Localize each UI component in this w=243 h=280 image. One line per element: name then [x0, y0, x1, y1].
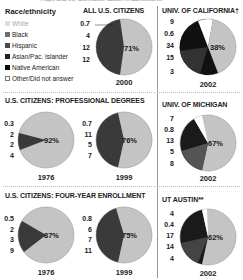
- swatch-native: [5, 65, 10, 70]
- panel-title: UNIV. OF CALIFORNIA†: [162, 7, 239, 14]
- pie-michigan-2002: 67%: [178, 113, 238, 173]
- legend-item-asian: Asian/Pac. Islander: [5, 51, 75, 62]
- swatch-black: [5, 32, 10, 37]
- legend-item-white: White: [5, 18, 75, 29]
- pie-labels-enroll-1976: 0.5 2 3 9: [2, 215, 14, 275]
- row-divider-2: [3, 186, 240, 187]
- year-label: 1999: [104, 268, 144, 277]
- year-label: 2002: [188, 269, 228, 278]
- pie-all-us-2000: 71%: [94, 17, 154, 77]
- cut-off-header-text: ...ups and the affirmative action in adm…: [40, 0, 163, 2]
- legend-item-other: Other/Did not answer: [5, 73, 75, 84]
- pie-prof-1999: 76%: [94, 110, 154, 170]
- legend-title: Race/ethnicity: [5, 7, 75, 16]
- pie-labels-prof-1976: 0.3 2 2 4: [2, 120, 14, 180]
- year-label: 2000: [104, 78, 144, 87]
- year-label: 1976: [26, 173, 66, 182]
- panel-univ-of-california: UNIV. OF CALIFORNIA†: [162, 7, 239, 14]
- legend-item-native: Native American: [5, 62, 75, 73]
- legend-item-black: Black: [5, 29, 75, 40]
- pie-labels-michigan: 7 0.8 13 5 8: [162, 115, 174, 185]
- panel-all-us-citizens: ALL U.S. CITIZENS: [83, 7, 144, 14]
- vertical-divider: [157, 6, 158, 278]
- swatch-asian: [5, 54, 10, 59]
- panel-title: U.S. CITIZENS: PROFESSIONAL DEGREES: [5, 97, 145, 104]
- pie-labels-ut-austin: 4 0.4 17 14 4: [162, 210, 174, 280]
- swatch-hispanic: [5, 43, 10, 48]
- pie-labels-uc: 9 0.6 34 15 3: [162, 16, 174, 86]
- pie-prof-1976: 92%: [16, 110, 76, 170]
- year-label: 1976: [26, 268, 66, 277]
- year-label: 1999: [104, 173, 144, 182]
- panel-title: UNIV. OF MICHIGAN: [162, 101, 227, 108]
- panel-professional-degrees: U.S. CITIZENS: PROFESSIONAL DEGREES: [5, 97, 145, 104]
- pie-enroll-1976: 87%: [16, 205, 76, 265]
- pie-enroll-1999: 75%: [94, 205, 154, 265]
- panel-univ-of-michigan: UNIV. OF MICHIGAN: [162, 101, 227, 108]
- pie-labels-all-us: 0.7 4 12 12: [78, 18, 90, 78]
- panel-title: UT AUSTIN**: [162, 196, 203, 203]
- panel-title: ALL U.S. CITIZENS: [83, 7, 144, 14]
- legend-item-hispanic: Hispanic: [5, 40, 75, 51]
- legend: Race/ethnicity White Black Hispanic Asia…: [5, 7, 75, 84]
- panel-ut-austin: UT AUSTIN**: [162, 196, 203, 203]
- pie-ut-austin-2002: 62%: [178, 207, 238, 267]
- row-divider-1: [3, 92, 240, 93]
- swatch-other: [5, 76, 10, 81]
- year-label: 2002: [188, 174, 228, 183]
- pie-labels-enroll-1999: 0.8 6 7 11: [80, 215, 92, 275]
- year-label: 2002: [188, 80, 228, 89]
- panel-four-year-enrollment: U.S. CITIZENS: FOUR-YEAR ENROLLMENT: [5, 192, 145, 199]
- swatch-white: [5, 21, 10, 26]
- pie-labels-prof-1999: 0.7 11 5 7: [80, 120, 92, 180]
- pie-uc-2002: 38%: [178, 17, 238, 77]
- panel-title: U.S. CITIZENS: FOUR-YEAR ENROLLMENT: [5, 192, 145, 199]
